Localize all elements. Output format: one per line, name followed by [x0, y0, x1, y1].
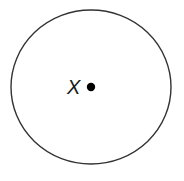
circle-diagram: X: [0, 0, 184, 181]
center-point: [87, 83, 95, 91]
center-label: X: [66, 76, 81, 98]
